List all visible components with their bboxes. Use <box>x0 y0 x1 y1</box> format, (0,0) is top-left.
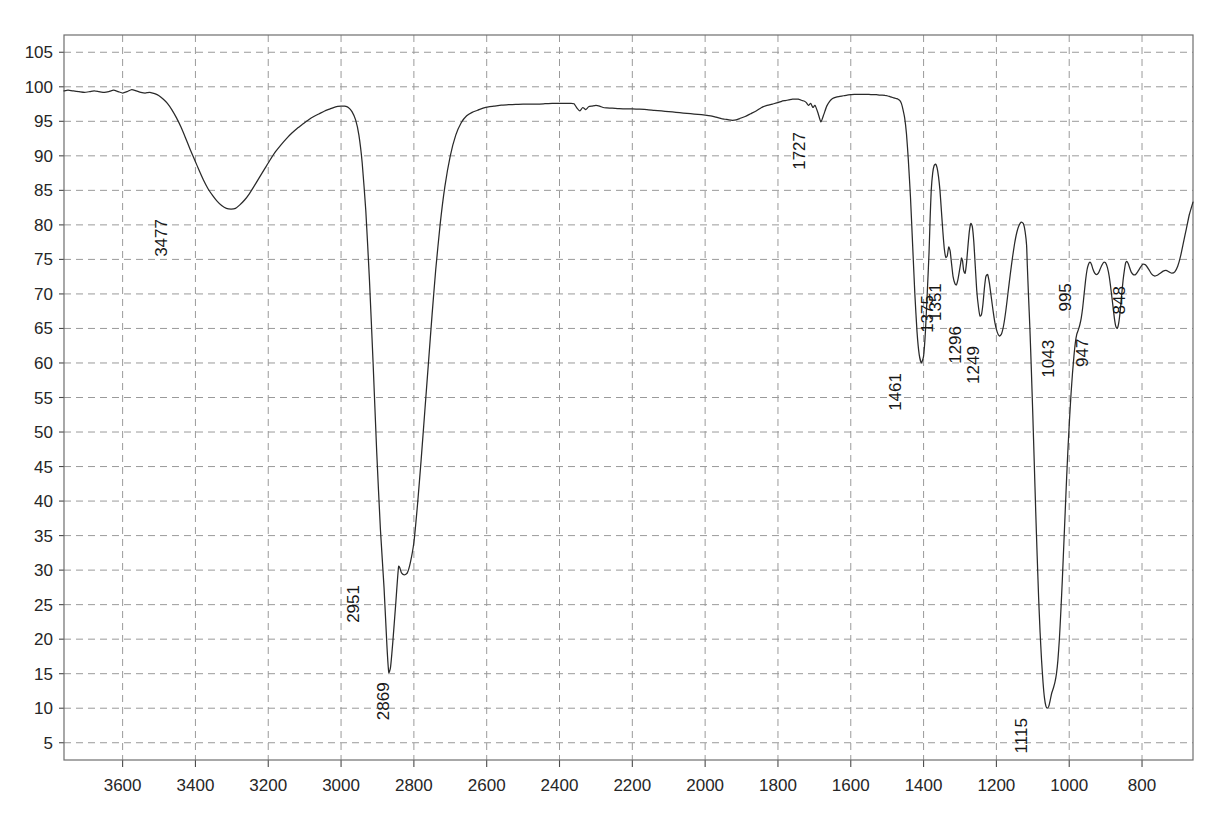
x-tick-label: 3200 <box>249 776 287 795</box>
peak-label-1115: 1115 <box>1012 718 1031 753</box>
x-tick-label: 1400 <box>905 776 943 795</box>
peak-label-3477: 3477 <box>152 219 171 257</box>
peak-label-2869: 2869 <box>374 682 393 720</box>
peak-label-2951: 2951 <box>344 585 363 623</box>
peak-label-995: 995 <box>1056 283 1075 311</box>
x-axis-tick-labels: 3600340032003000280026002400220020001800… <box>104 776 1157 795</box>
y-tick-label: 75 <box>34 250 53 269</box>
peak-label-1296: 1296 <box>946 326 965 364</box>
peak-label-1727: 1727 <box>790 132 809 170</box>
x-tick-label: 2800 <box>395 776 433 795</box>
peak-label-1351: 1351 <box>926 283 945 321</box>
peak-label-848: 848 <box>1110 286 1129 314</box>
y-tick-label: 40 <box>34 492 53 511</box>
y-tick-label: 35 <box>34 527 53 546</box>
y-tick-label: 90 <box>34 147 53 166</box>
x-tick-label: 2600 <box>468 776 506 795</box>
y-tick-label: 45 <box>34 458 53 477</box>
y-tick-label: 100 <box>25 78 53 97</box>
x-tick-label: 2200 <box>613 776 651 795</box>
spectrum-plot-area: 5101520253035404550556065707580859095100… <box>0 0 1221 823</box>
x-tick-label: 800 <box>1128 776 1156 795</box>
x-tick-label: 1200 <box>977 776 1015 795</box>
peak-label-1249: 1249 <box>964 346 983 384</box>
y-tick-label: 20 <box>34 630 53 649</box>
y-tick-label: 25 <box>34 596 53 615</box>
peak-label-1461: 1461 <box>886 373 905 411</box>
chart-background <box>0 0 1221 823</box>
y-tick-label: 105 <box>25 43 53 62</box>
x-tick-label: 2400 <box>541 776 579 795</box>
peak-label-1043: 1043 <box>1039 340 1058 378</box>
y-tick-label: 50 <box>34 423 53 442</box>
peak-label-947: 947 <box>1073 338 1092 366</box>
y-tick-label: 10 <box>34 699 53 718</box>
y-tick-label: 30 <box>34 561 53 580</box>
y-tick-label: 80 <box>34 216 53 235</box>
y-tick-label: 5 <box>44 734 53 753</box>
y-tick-label: 15 <box>34 665 53 684</box>
ir-spectrum-chart: 5101520253035404550556065707580859095100… <box>0 0 1221 823</box>
x-tick-label: 3400 <box>177 776 215 795</box>
y-tick-label: 65 <box>34 319 53 338</box>
y-tick-label: 70 <box>34 285 53 304</box>
x-tick-label: 3600 <box>104 776 142 795</box>
x-tick-label: 1600 <box>832 776 870 795</box>
y-tick-label: 55 <box>34 389 53 408</box>
y-tick-label: 85 <box>34 181 53 200</box>
x-tick-label: 2000 <box>686 776 724 795</box>
x-tick-label: 1000 <box>1050 776 1088 795</box>
x-tick-label: 3000 <box>322 776 360 795</box>
y-tick-label: 60 <box>34 354 53 373</box>
x-tick-label: 1800 <box>759 776 797 795</box>
y-tick-label: 95 <box>34 112 53 131</box>
